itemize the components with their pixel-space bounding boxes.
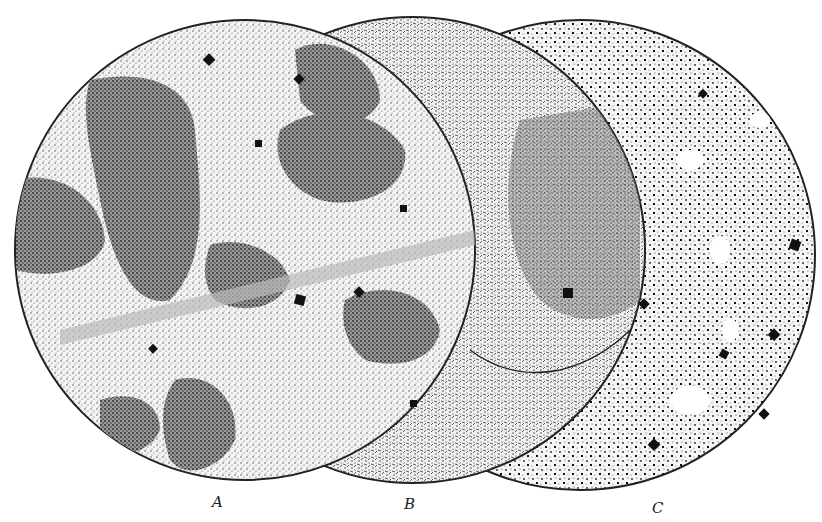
panel-a-micrograph (15, 20, 475, 480)
panel-label-c: C (652, 499, 663, 517)
micrograph-figure (0, 0, 822, 522)
panel-label-a: A (212, 493, 223, 511)
panel-label-b: B (404, 495, 415, 513)
